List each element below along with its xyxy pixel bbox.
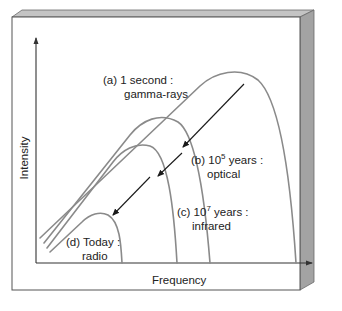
label-a-line2: gamma-rays <box>124 88 188 100</box>
label-d-line2: radio <box>82 250 108 262</box>
label-d-line1: (d) Today : <box>66 236 120 248</box>
label-a-line1: (a) 1 second : <box>103 74 173 86</box>
x-axis-label: Frequency <box>152 274 207 286</box>
frame-right-side <box>300 10 314 290</box>
label-b-line1: (b) 105 years : <box>191 152 263 166</box>
frame-top-bevel <box>12 10 314 17</box>
label-b-line2: optical <box>207 168 240 180</box>
frame <box>12 10 314 290</box>
label-c-line2: infrared <box>192 220 231 232</box>
y-axis-label: Intensity <box>18 136 30 179</box>
label-c-line1: (c) 107 years : <box>177 204 249 218</box>
spectrum-diagram: Frequency Intensity (a) 1 second : gamma… <box>0 0 342 311</box>
